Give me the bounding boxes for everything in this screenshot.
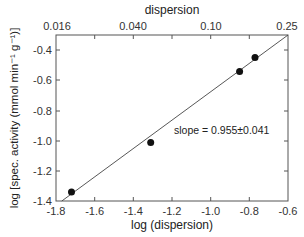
- y-tick-labels: -1.4 -1.2 -1.0 -0.8 -0.6 -0.4: [33, 44, 52, 207]
- y-tick-label: -0.4: [33, 44, 52, 56]
- data-point: [147, 139, 154, 146]
- y-axis-title: log [spec. activity (mmol min⁻¹ g⁻¹)]: [8, 28, 20, 209]
- x-tick-label: -1.0: [201, 205, 220, 217]
- data-point: [68, 189, 75, 196]
- y-tick-label: -1.4: [33, 195, 52, 207]
- top-tick-label: 0.040: [119, 20, 147, 32]
- top-tick-label: 0.10: [200, 20, 221, 32]
- bottom-x-ticks: [95, 197, 250, 201]
- y-tick-label: -1.2: [33, 165, 52, 177]
- top-axis-title: dispersion: [145, 3, 200, 17]
- x-tick-label: -1.6: [85, 205, 104, 217]
- data-point: [236, 68, 243, 75]
- top-tick-label: 0.25: [276, 20, 297, 32]
- y-tick-label: -0.6: [33, 74, 52, 86]
- y-tick-label: -1.0: [33, 135, 52, 147]
- x-tick-label: -1.4: [124, 205, 143, 217]
- top-tick-label: 0.016: [43, 20, 71, 32]
- top-x-ticks: [95, 35, 250, 39]
- slope-annotation: slope = 0.955±0.041: [174, 124, 270, 136]
- chart-canvas: -1.8 -1.6 -1.4 -1.2 -1.0 -0.8 -0.6 0.016…: [0, 0, 304, 237]
- x-tick-label: -0.8: [240, 205, 259, 217]
- y-tick-label: -0.8: [33, 105, 52, 117]
- x-axis-title: log (dispersion): [131, 218, 213, 232]
- data-point: [252, 54, 259, 61]
- left-y-ticks: [56, 50, 60, 171]
- right-y-ticks: [284, 50, 288, 171]
- x-tick-label: -0.6: [279, 205, 298, 217]
- top-x-tick-labels: 0.016 0.040 0.10 0.25: [43, 20, 297, 32]
- bottom-x-tick-labels: -1.8 -1.6 -1.4 -1.2 -1.0 -0.8 -0.6: [47, 205, 298, 217]
- x-tick-label: -1.2: [163, 205, 182, 217]
